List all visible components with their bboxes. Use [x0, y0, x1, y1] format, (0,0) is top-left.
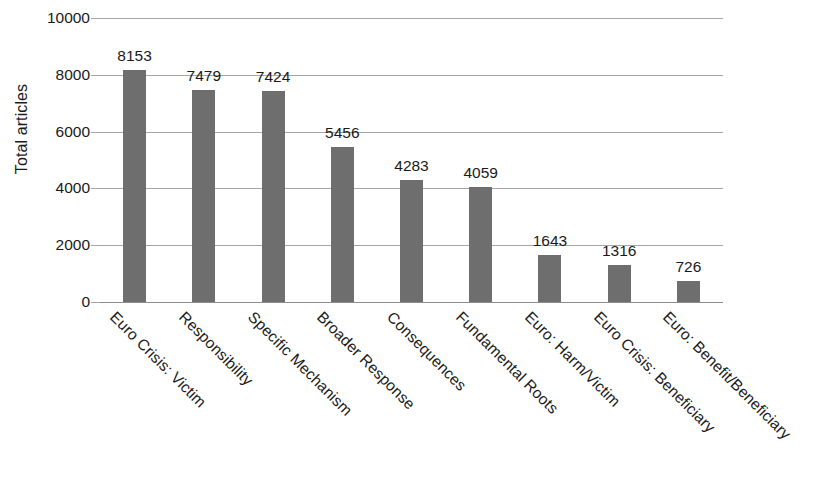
plot-area: 0200040006000800010000 81537479742454564…	[100, 18, 723, 302]
bar	[331, 147, 354, 302]
bar	[400, 180, 423, 302]
bar-value-label: 4283	[394, 157, 428, 175]
bar-value-label: 5456	[325, 124, 359, 142]
gridline	[100, 302, 723, 303]
y-tick-mark	[91, 75, 100, 76]
y-tick-mark	[91, 18, 100, 19]
y-tick-mark	[91, 302, 100, 303]
gridline	[100, 18, 723, 19]
bar	[192, 90, 215, 302]
bar-chart: Total articles 0200040006000800010000 81…	[0, 0, 837, 480]
x-tick-label: Euro Crisis: Beneficiary	[590, 308, 718, 436]
y-tick-label: 10000	[47, 9, 90, 27]
bar	[608, 265, 631, 302]
bar-value-label: 1316	[602, 242, 636, 260]
bar-value-label: 7424	[256, 68, 290, 86]
y-tick-mark	[91, 245, 100, 246]
bar-value-label: 8153	[117, 47, 151, 65]
bar-value-label: 726	[675, 258, 701, 276]
bar-value-label: 7479	[187, 67, 221, 85]
bar-value-label: 1643	[533, 232, 567, 250]
y-tick-label: 4000	[56, 179, 90, 197]
bar	[469, 187, 492, 302]
y-tick-label: 6000	[56, 123, 90, 141]
bar	[677, 281, 700, 302]
bar	[538, 255, 561, 302]
bar-value-label: 4059	[463, 164, 497, 182]
bar	[262, 91, 285, 302]
y-tick-label: 0	[81, 293, 90, 311]
y-tick-mark	[91, 188, 100, 189]
y-axis-title: Total articles	[13, 49, 31, 209]
bar	[123, 70, 146, 302]
x-tick-label: Euro: Benefit/Beneficiary	[660, 308, 795, 443]
y-tick-mark	[91, 132, 100, 133]
y-tick-label: 8000	[56, 66, 90, 84]
y-tick-label: 2000	[56, 236, 90, 254]
